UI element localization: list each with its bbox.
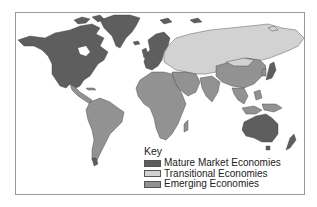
- region-japan: [266, 62, 276, 80]
- legend-swatch-mature: [144, 160, 161, 167]
- legend-swatch-emerging: [144, 181, 161, 188]
- legend-label: Emerging Economies: [164, 179, 259, 189]
- region-south-america: [86, 98, 124, 164]
- legend-label: Mature Market Economies: [164, 158, 281, 168]
- region-new-zealand: [286, 134, 296, 150]
- region-north-america: [18, 24, 108, 88]
- legend-item-emerging: Emerging Economies: [144, 179, 281, 190]
- region-australia: [242, 114, 278, 142]
- legend-item-mature: Mature Market Economies: [144, 158, 281, 169]
- legend: Key Mature Market Economies Transitional…: [144, 146, 281, 190]
- legend-title: Key: [144, 146, 281, 157]
- legend-swatch-transitional: [144, 170, 161, 177]
- legend-label: Transitional Economies: [164, 169, 268, 179]
